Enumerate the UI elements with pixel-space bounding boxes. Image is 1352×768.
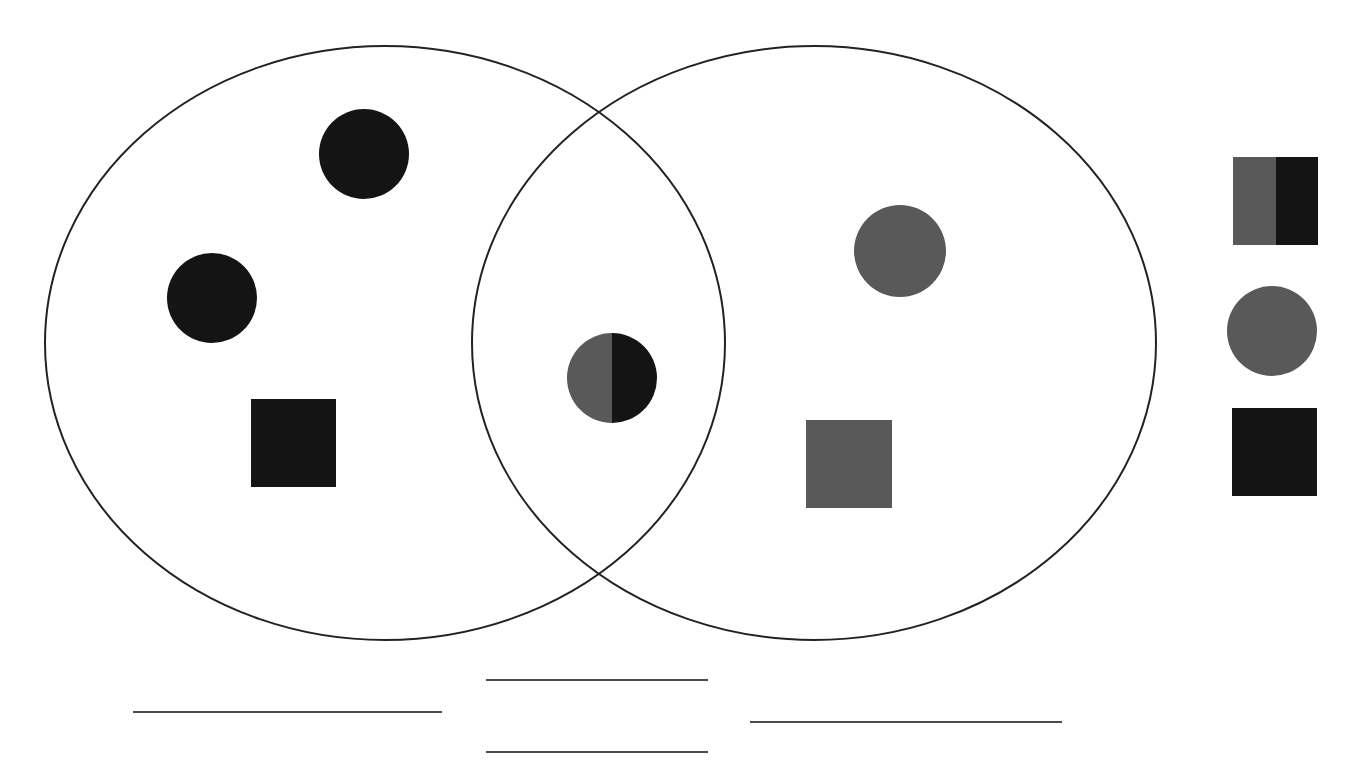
black-circle-icon[interactable] (319, 109, 409, 199)
venn-diagram (0, 0, 1352, 768)
middle-top-answer-line[interactable] (486, 679, 708, 681)
right-set-ellipse (472, 46, 1156, 640)
gray-square-icon[interactable] (806, 420, 892, 508)
left-answer-line[interactable] (133, 711, 442, 713)
gray-circle-icon[interactable] (1227, 286, 1317, 376)
half-gray-half-black-square-icon[interactable] (1233, 157, 1318, 245)
half-gray-half-black-circle-icon[interactable] (567, 333, 657, 423)
middle-bottom-answer-line[interactable] (486, 751, 708, 753)
right-answer-line[interactable] (750, 721, 1062, 723)
gray-circle-icon[interactable] (854, 205, 946, 297)
black-square-icon[interactable] (1232, 408, 1317, 496)
venn-diagram-worksheet (0, 0, 1352, 768)
black-circle-icon[interactable] (167, 253, 257, 343)
black-square-icon[interactable] (251, 399, 336, 487)
